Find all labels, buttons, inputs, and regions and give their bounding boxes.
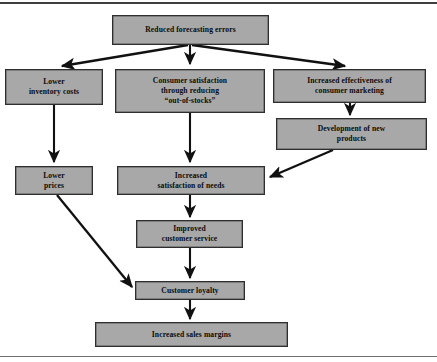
node-label: Improvedcustomer service [140,224,239,243]
node-increased-effectiveness-of-consumer-marketing[interactable]: Increased effectiveness ofconsumer marke… [273,69,426,103]
node-label: Increased sales margins [99,330,284,340]
node-label: Lowerprices [19,171,89,190]
node-label: Customer loyalty [139,286,241,296]
node-increased-sales-margins[interactable]: Increased sales margins [95,322,288,347]
node-lower-prices[interactable]: Lowerprices [15,166,93,195]
node-customer-loyalty[interactable]: Customer loyalty [135,281,245,300]
node-label: Consumer satisfactionthrough reducing“ou… [119,76,261,105]
bottom-divider-rule [0,356,437,357]
node-label: Reduced forecasting errors [116,25,265,35]
node-label: Development of newproducts [280,124,423,143]
node-label: Increasedsatisfaction of needs [121,171,261,190]
edge-development-to-needs [270,150,333,177]
node-improved-customer-service[interactable]: Improvedcustomer service [136,220,243,248]
node-increased-satisfaction-of-needs[interactable]: Increasedsatisfaction of needs [117,166,265,195]
edge-top-to-increased-effectiveness [192,45,345,66]
node-lower-inventory-costs[interactable]: Lowerinventory costs [5,69,103,105]
node-consumer-satisfaction[interactable]: Consumer satisfactionthrough reducing“ou… [115,69,265,113]
node-reduced-forecasting-errors[interactable]: Reduced forecasting errors [112,15,269,45]
flowchart-canvas: Reduced forecasting errors Lowerinventor… [0,0,437,362]
edge-top-to-lower-inventory [62,45,188,66]
node-label: Increased effectiveness ofconsumer marke… [277,76,422,95]
node-development-of-new-products[interactable]: Development of newproducts [276,118,427,150]
edge-prices-to-loyalty [57,195,132,287]
top-divider-rule [0,2,437,4]
node-label: Lowerinventory costs [9,77,99,96]
